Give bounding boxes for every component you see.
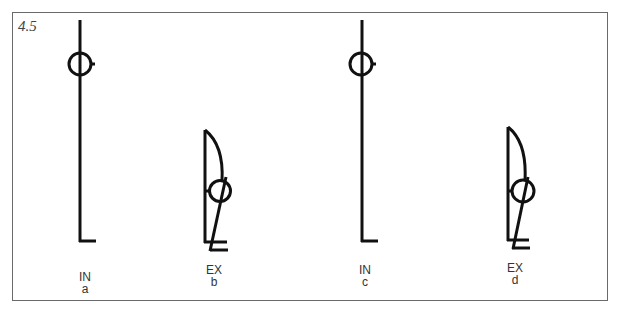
letter-label: c — [345, 276, 385, 288]
figure-c-in-symbol — [350, 20, 378, 242]
label-a: IN a — [65, 271, 105, 295]
letter-label: d — [495, 274, 535, 286]
figure-b-ex-symbol — [204, 130, 231, 251]
figure-d-ex-symbol — [507, 127, 534, 249]
label-c: IN c — [345, 264, 385, 288]
letter-label: a — [65, 283, 105, 295]
label-b: EX b — [194, 264, 234, 288]
letter-label: b — [194, 276, 234, 288]
figure-a-in-symbol — [69, 20, 96, 242]
label-d: EX d — [495, 262, 535, 286]
